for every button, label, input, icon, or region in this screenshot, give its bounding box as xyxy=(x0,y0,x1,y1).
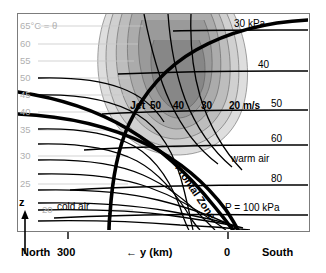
x-axis-tick-label-300: 300 xyxy=(57,246,75,258)
cold-air-label: cold air xyxy=(57,201,89,212)
x-axis-label-north: North xyxy=(21,246,50,258)
z-axis-label: z xyxy=(19,196,25,208)
isotach-label-30: 30 xyxy=(201,100,212,111)
warm-air-label: warm air xyxy=(231,153,269,164)
theta-label-30: 30 xyxy=(20,150,31,161)
isentrope-18 xyxy=(38,221,250,230)
theta-label-55: 55 xyxy=(20,55,31,66)
theta-label-20: 20 xyxy=(42,204,53,215)
x-axis-ticks xyxy=(17,232,310,240)
theta-label-35: 35 xyxy=(20,124,31,135)
pressure-label-30kpa: 30 kPa xyxy=(234,18,265,29)
plot-area: 65°C = θ 60 55 50 45 40 35 30 25 20 30 k… xyxy=(17,13,310,232)
pressure-label-60: 60 xyxy=(271,133,282,144)
pressure-label-40: 40 xyxy=(258,59,269,70)
theta-label-25: 25 xyxy=(20,178,31,189)
jet-label: Jet xyxy=(130,99,145,111)
cross-section-svg xyxy=(18,14,308,230)
isotach-label-50: 50 xyxy=(150,100,161,111)
pressure-label-100kpa: P = 100 kPa xyxy=(225,202,280,213)
theta-label-50: 50 xyxy=(20,72,31,83)
figure-root: 65°C = θ 60 55 50 45 40 35 30 25 20 30 k… xyxy=(0,0,326,273)
isotach-label-20: 20 m/s xyxy=(229,100,260,111)
pressure-label-50: 50 xyxy=(271,98,282,109)
x-axis-tick-label-0: 0 xyxy=(224,246,230,258)
theta-label-40: 40 xyxy=(20,106,31,117)
x-axis-title: ← y (km) xyxy=(126,246,172,258)
pressure-label-80: 80 xyxy=(271,173,282,184)
theta-label-65: 65°C = θ xyxy=(20,20,57,31)
theta-label-60: 60 xyxy=(20,38,31,49)
theta-label-45: 45 xyxy=(20,89,31,100)
isotach-label-40: 40 xyxy=(173,100,184,111)
x-axis-label-south: South xyxy=(262,246,293,258)
